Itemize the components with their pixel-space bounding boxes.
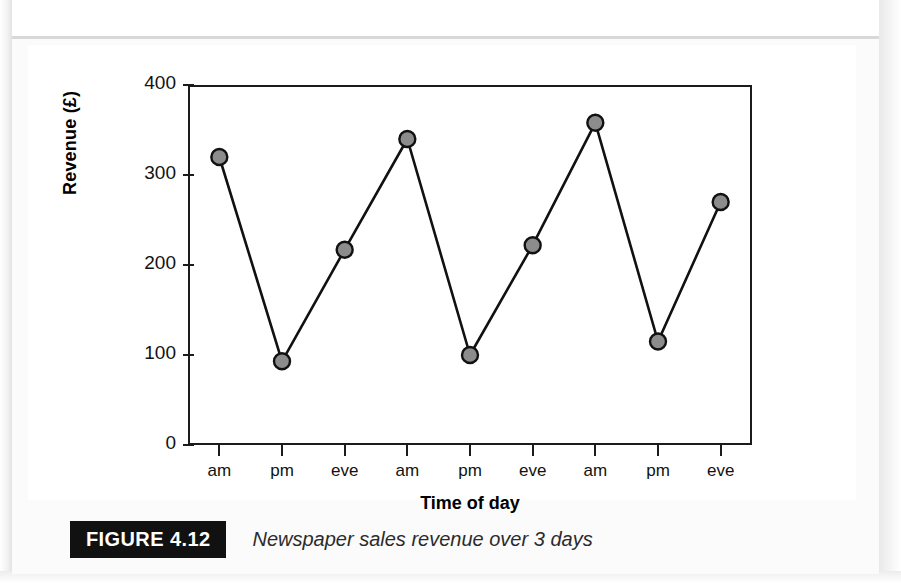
data-point (713, 194, 729, 210)
data-point (650, 334, 666, 350)
series-markers (211, 115, 728, 369)
figure-canvas: Revenue (£) 0100200300400 ampmeveampmeve… (12, 36, 879, 574)
line-chart: Revenue (£) 0100200300400 ampmeveampmeve… (28, 45, 856, 507)
figure-number-badge: FIGURE 4.12 (70, 521, 226, 558)
data-point (337, 242, 353, 258)
scan-right-edge (879, 0, 901, 583)
scanned-page: Revenue (£) 0100200300400 ampmeveampmeve… (0, 0, 901, 583)
figure-sheet: Revenue (£) 0100200300400 ampmeveampmeve… (28, 45, 856, 500)
scan-top-margin (0, 0, 901, 36)
figure-caption-text: Newspaper sales revenue over 3 days (252, 528, 592, 551)
data-point (399, 131, 415, 147)
x-axis-title: Time of day (188, 493, 752, 514)
scan-left-edge (0, 0, 12, 583)
series-line (219, 123, 720, 361)
figure-caption: FIGURE 4.12 Newspaper sales revenue over… (44, 519, 872, 559)
data-point (211, 149, 227, 165)
data-point (274, 353, 290, 369)
data-point (587, 115, 603, 131)
series-layer (28, 45, 856, 507)
data-point (462, 347, 478, 363)
data-point (525, 237, 541, 253)
